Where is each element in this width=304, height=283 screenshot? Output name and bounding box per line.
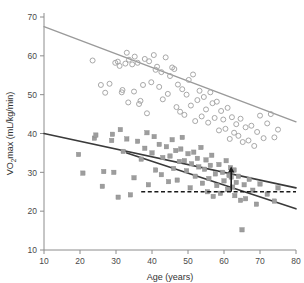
data-point-square — [174, 148, 178, 152]
data-point-square — [210, 153, 214, 157]
data-point-square — [242, 183, 246, 187]
x-tick-label: 20 — [75, 256, 85, 266]
data-point-square — [132, 176, 136, 180]
data-point-square — [193, 174, 197, 178]
data-point-square — [171, 166, 175, 170]
data-point-square — [128, 193, 132, 197]
data-point-square — [168, 154, 172, 158]
data-point-square — [234, 180, 238, 184]
data-point-square — [180, 135, 184, 139]
data-point-square — [238, 198, 242, 202]
data-point-square — [188, 186, 192, 190]
y-tick-label: 60 — [28, 51, 38, 61]
y-tick-label: 40 — [28, 129, 38, 139]
data-point-square — [166, 179, 170, 183]
data-point-square — [195, 156, 199, 160]
data-point-square — [145, 131, 149, 135]
data-point-square — [175, 178, 179, 182]
data-point-square — [94, 133, 98, 137]
data-point-square — [254, 202, 258, 206]
chart-background — [0, 0, 304, 283]
data-point-square — [109, 138, 113, 142]
y-axis-title: VO2max (mL/kg/min) — [5, 92, 17, 176]
y-tick-label: 30 — [28, 168, 38, 178]
data-point-square — [213, 172, 217, 176]
data-point-square — [207, 176, 211, 180]
data-point-square — [204, 158, 208, 162]
data-point-square — [224, 158, 228, 162]
x-tick-label: 10 — [39, 256, 49, 266]
data-point-square — [177, 159, 181, 163]
data-point-square — [161, 155, 165, 159]
data-point-square — [143, 146, 147, 150]
data-point-square — [150, 151, 154, 155]
data-point-square — [222, 179, 226, 183]
data-point-square — [182, 158, 186, 162]
data-point-square — [233, 193, 237, 197]
data-point-square — [146, 183, 150, 187]
data-point-square — [179, 147, 183, 151]
data-point-square — [192, 150, 196, 154]
data-point-square — [276, 186, 280, 190]
y-tick-label: 50 — [28, 90, 38, 100]
data-point-square — [247, 177, 251, 181]
data-point-square — [217, 162, 221, 166]
data-point-square — [81, 171, 85, 175]
data-point-square — [225, 187, 229, 191]
data-point-square — [208, 163, 212, 167]
data-point-square — [125, 137, 129, 141]
y-tick-label: 10 — [28, 245, 38, 255]
data-point-square — [200, 181, 204, 185]
data-point-square — [135, 139, 139, 143]
data-point-square — [116, 195, 120, 199]
data-point-square — [112, 170, 116, 174]
data-point-square — [102, 169, 106, 173]
data-point-square — [118, 127, 122, 131]
scatter-plot-svg: 10203040506070 1020304050607080 Age (yea… — [0, 0, 304, 283]
data-point-square — [100, 184, 104, 188]
data-point-square — [272, 199, 276, 203]
data-point-square — [164, 145, 168, 149]
y-tick-label: 20 — [28, 206, 38, 216]
x-tick-label: 50 — [183, 256, 193, 266]
data-point-square — [243, 197, 247, 201]
data-point-square — [236, 174, 240, 178]
data-point-square — [139, 157, 143, 161]
data-point-square — [186, 151, 190, 155]
x-tick-label: 40 — [147, 256, 157, 266]
data-point-square — [240, 228, 244, 232]
data-point-square — [189, 162, 193, 166]
data-point-square — [159, 172, 163, 176]
data-point-square — [170, 138, 174, 142]
data-point-square — [184, 169, 188, 173]
data-point-square — [202, 167, 206, 171]
data-point-square — [153, 168, 157, 172]
y-tick-label: 70 — [28, 12, 38, 22]
data-point-square — [211, 194, 215, 198]
chart-figure: 10203040506070 1020304050607080 Age (yea… — [0, 0, 304, 283]
data-point-square — [121, 149, 125, 153]
data-point-square — [76, 152, 80, 156]
data-point-square — [152, 134, 156, 138]
x-tick-label: 70 — [255, 256, 265, 266]
data-point-square — [199, 145, 203, 149]
data-point-square — [265, 192, 269, 196]
data-point-square — [220, 170, 224, 174]
data-point-square — [215, 183, 219, 187]
x-tick-label: 30 — [111, 256, 121, 266]
data-point-square — [157, 142, 161, 146]
x-tick-label: 80 — [291, 256, 301, 266]
data-point-square — [110, 132, 114, 136]
x-tick-label: 60 — [219, 256, 229, 266]
data-point-square — [258, 182, 262, 186]
data-point-square — [197, 165, 201, 169]
x-axis-title: Age (years) — [147, 272, 194, 282]
